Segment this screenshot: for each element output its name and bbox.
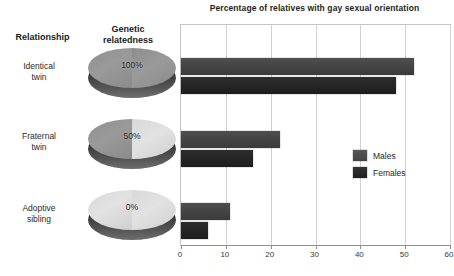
relatedness-disc-identical-twin: 100% <box>86 46 178 102</box>
x-axis-tick-label: 30 <box>310 250 319 259</box>
relatedness-percent-label: 0% <box>86 202 178 212</box>
column-header-relationship: Relationship <box>5 32 80 43</box>
chart-legend: Males Females <box>353 147 406 181</box>
row-label-line2: sibling <box>2 214 76 225</box>
relatedness-percent-label: 100% <box>86 60 178 70</box>
bar-males-adoptive-sibling <box>181 203 230 220</box>
x-axis-tick-label: 0 <box>178 250 182 259</box>
x-axis-tick <box>360 245 361 249</box>
bar-females-adoptive-sibling <box>181 222 208 239</box>
bar-females-fraternal-twin <box>181 150 253 167</box>
column-header-genetic-relatedness: Genetic relatedness <box>80 24 176 46</box>
bar-males-identical-twin <box>181 58 414 75</box>
x-axis-tick <box>181 245 182 249</box>
row-label-line1: Fraternal <box>2 131 76 142</box>
legend-swatch-males-icon <box>353 150 367 161</box>
legend-swatch-females-icon <box>353 167 367 178</box>
x-axis-tick-label: 10 <box>220 250 229 259</box>
row-label-line1: Adoptive <box>2 203 76 214</box>
legend-label-males: Males <box>373 151 396 161</box>
x-axis-tick <box>405 245 406 249</box>
relatedness-disc-fraternal-twin: 50% <box>86 117 178 173</box>
row-label-adoptive-sibling: Adoptive sibling <box>2 203 76 225</box>
x-axis-tick-label: 60 <box>445 250 454 259</box>
x-axis-tick <box>271 245 272 249</box>
column-header-genetic-relatedness-line2: relatedness <box>80 35 176 46</box>
row-label-line2: twin <box>2 142 76 153</box>
x-axis-tick-label: 50 <box>400 250 409 259</box>
relatedness-percent-label: 50% <box>86 131 178 141</box>
row-label-line1: Identical <box>2 61 76 72</box>
row-label-identical-twin: Identical twin <box>2 61 76 83</box>
relatedness-disc-adoptive-sibling: 0% <box>86 188 178 244</box>
x-axis-tick <box>316 245 317 249</box>
legend-label-females: Females <box>373 168 406 178</box>
bar-females-identical-twin <box>181 77 396 94</box>
column-header-genetic-relatedness-line1: Genetic <box>80 24 176 35</box>
row-label-line2: twin <box>2 72 76 83</box>
gridline <box>450 25 451 245</box>
x-axis-tick <box>450 245 451 249</box>
row-label-fraternal-twin: Fraternal twin <box>2 131 76 153</box>
legend-item-males: Males <box>353 147 406 164</box>
x-axis-tick <box>226 245 227 249</box>
chart-title: Percentage of relatives with gay sexual … <box>175 3 454 13</box>
legend-item-females: Females <box>353 164 406 181</box>
bar-chart-plot-area <box>180 24 451 246</box>
x-axis-tick-label: 20 <box>265 250 274 259</box>
x-axis-tick-label: 40 <box>355 250 364 259</box>
bar-males-fraternal-twin <box>181 131 280 148</box>
